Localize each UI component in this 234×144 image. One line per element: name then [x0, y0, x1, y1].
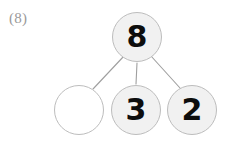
bond-value-part-2: 3 — [126, 95, 147, 125]
bond-circle-part-3[interactable]: 2 — [167, 85, 217, 135]
bond-value-whole: 8 — [127, 22, 148, 52]
bond-circle-part-1-blank[interactable] — [54, 85, 104, 135]
bond-circle-whole[interactable]: 8 — [112, 12, 162, 62]
connector-line-right — [151, 56, 180, 88]
connector-line-middle — [136, 63, 137, 84]
bond-value-part-3: 2 — [182, 95, 203, 125]
connector-line-left — [93, 56, 124, 89]
number-bond-worksheet-item: (8) 8 3 2 — [0, 0, 234, 144]
bond-circle-part-2[interactable]: 3 — [111, 85, 161, 135]
